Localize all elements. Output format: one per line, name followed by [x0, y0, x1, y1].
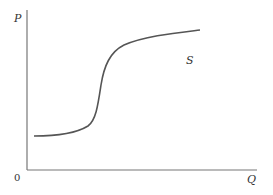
- y-axis-label: P: [13, 12, 22, 25]
- curve-label: S: [186, 54, 194, 67]
- origin-label: 0: [14, 172, 20, 183]
- chart-canvas: P Q 0 S: [0, 0, 273, 195]
- supply-curve: [34, 30, 200, 136]
- supply-curve-chart: P Q 0 S: [0, 0, 273, 195]
- x-axis-label: Q: [247, 173, 256, 186]
